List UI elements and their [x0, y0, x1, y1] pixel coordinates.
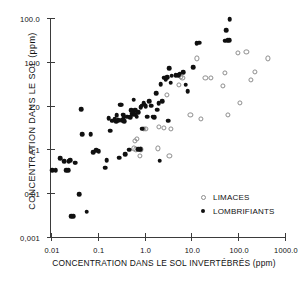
data-point-limaces — [225, 112, 230, 117]
data-point-limaces — [177, 82, 182, 87]
scatter-plot-figure: CONCENTRATION DANS LE SOL (ppm) CONCENTR… — [0, 0, 305, 281]
data-point-limaces — [168, 126, 173, 131]
x-tick: 0.1 — [98, 233, 99, 241]
data-point-lombrifiants — [157, 158, 162, 163]
data-point-lombrifiants — [108, 129, 113, 134]
data-point-lombrifiants — [74, 160, 79, 165]
x-tick: 1.0 — [145, 233, 146, 241]
data-point-lombrifiants — [79, 107, 84, 112]
data-point-lombrifiants — [138, 147, 143, 152]
y-tick-label: 0,1 — [29, 146, 40, 155]
y-tick: 0,1 — [47, 149, 55, 150]
data-point-limaces — [155, 146, 160, 151]
data-point-limaces — [194, 56, 199, 61]
data-point-limaces — [161, 125, 166, 130]
data-point-lombrifiants — [181, 70, 186, 75]
data-point-lombrifiants — [53, 168, 58, 173]
data-point-lombrifiants — [127, 147, 132, 152]
data-point-lombrifiants — [119, 102, 124, 107]
data-point-lombrifiants — [134, 114, 139, 119]
legend-item-lombrifiants: LOMBRIFIANTS — [196, 204, 275, 218]
data-point-limaces — [221, 83, 226, 88]
data-point-limaces — [198, 116, 203, 121]
data-point-limaces — [253, 70, 258, 75]
legend: LIMACESLOMBRIFIANTS — [196, 190, 275, 218]
data-point-lombrifiants — [145, 114, 150, 119]
data-point-lombrifiants — [227, 17, 232, 22]
data-point-lombrifiants — [184, 82, 189, 87]
data-point-limaces — [222, 70, 227, 75]
data-point-lombrifiants — [186, 89, 191, 94]
y-tick: 1,0 — [47, 106, 55, 107]
data-point-lombrifiants — [103, 166, 108, 171]
x-tick-label: 0.1 — [93, 246, 104, 255]
data-point-limaces — [167, 153, 172, 158]
legend-label: LOMBRIFIANTS — [213, 207, 275, 216]
y-tick: 100.0 — [47, 18, 55, 19]
data-point-lombrifiants — [158, 82, 163, 87]
data-point-lombrifiants — [197, 40, 202, 45]
x-axis-label: CONCENTRATION DANS LE SOL INVERTÉBRÉS (p… — [30, 258, 298, 268]
data-point-lombrifiants — [132, 98, 137, 103]
x-tick: 10.0 — [191, 233, 192, 241]
y-tick-label: 0,001 — [20, 234, 40, 243]
data-point-lombrifiants — [88, 132, 93, 137]
y-tick-label: 10,0 — [24, 58, 40, 67]
data-point-lombrifiants — [160, 99, 165, 104]
data-point-lombrifiants — [80, 132, 85, 137]
data-point-limaces — [137, 153, 142, 158]
data-point-lombrifiants — [168, 81, 173, 86]
data-point-limaces — [249, 77, 254, 82]
data-point-limaces — [236, 50, 241, 55]
data-point-limaces — [238, 100, 243, 105]
data-point-lombrifiants — [84, 209, 89, 214]
data-point-lombrifiants — [227, 38, 232, 43]
x-tick-label: 100.0 — [229, 246, 249, 255]
data-point-limaces — [208, 75, 213, 80]
x-tick-label: 0.01 — [44, 246, 59, 255]
legend-label: LIMACES — [213, 193, 250, 202]
data-point-lombrifiants — [224, 28, 229, 33]
data-point-lombrifiants — [166, 118, 171, 123]
x-tick-label: 10.0 — [185, 246, 200, 255]
data-point-lombrifiants — [71, 214, 76, 219]
data-point-lombrifiants — [123, 152, 128, 157]
data-point-limaces — [265, 56, 270, 61]
data-point-lombrifiants — [136, 110, 141, 115]
data-point-limaces — [164, 92, 169, 97]
data-point-lombrifiants — [191, 65, 196, 70]
y-tick-label: 100.0 — [20, 15, 40, 24]
data-point-lombrifiants — [155, 108, 160, 113]
data-point-lombrifiants — [77, 192, 82, 197]
data-point-lombrifiants — [143, 104, 148, 109]
x-tick: 1000.0 — [285, 233, 286, 241]
data-point-limaces — [244, 50, 249, 55]
data-point-lombrifiants — [167, 66, 172, 71]
data-point-lombrifiants — [117, 155, 122, 160]
data-point-lombrifiants — [96, 149, 101, 154]
open-circle-icon — [196, 195, 210, 200]
data-point-lombrifiants — [122, 119, 127, 124]
x-tick-label: 1.0 — [140, 246, 151, 255]
data-point-limaces — [188, 112, 193, 117]
y-tick: 10,0 — [47, 62, 55, 63]
data-point-lombrifiants — [152, 115, 157, 120]
data-point-lombrifiants — [149, 103, 154, 108]
x-tick: 100.0 — [238, 233, 239, 241]
data-point-limaces — [134, 137, 139, 142]
x-tick: 0.01 — [51, 233, 52, 241]
x-tick-label: 1000.0 — [274, 246, 298, 255]
y-tick: 0,01 — [47, 193, 55, 194]
filled-circle-icon — [196, 209, 210, 213]
data-point-lombrifiants — [66, 168, 71, 173]
y-tick-label: 0,01 — [24, 190, 40, 199]
y-tick-label: 1,0 — [29, 102, 40, 111]
data-point-lombrifiants — [140, 126, 145, 131]
data-point-lombrifiants — [104, 158, 109, 163]
data-point-lombrifiants — [154, 91, 159, 96]
legend-item-limaces: LIMACES — [196, 190, 275, 204]
